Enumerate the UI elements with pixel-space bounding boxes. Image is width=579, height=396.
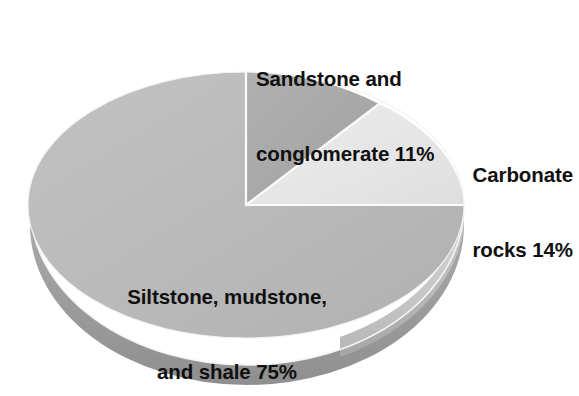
slice-label-siltstone: Siltstone, mudstone, and shale 75% [116,234,338,396]
slice-label-siltstone-line2: and shale 75% [116,359,338,384]
slice-label-carbonate-line2: rocks 14% [447,237,573,262]
slice-label-sandstone-line1: Sandstone and [256,66,434,91]
slice-label-carbonate-line1: Carbonate [447,162,573,187]
slice-label-carbonate: Carbonate rocks 14% [447,112,573,312]
pie-chart-figure: Sandstone and conglomerate 11% Carbonate… [0,0,579,396]
slice-label-sandstone: Sandstone and conglomerate 11% [256,16,434,216]
slice-label-sandstone-line2: conglomerate 11% [256,141,434,166]
slice-label-siltstone-line1: Siltstone, mudstone, [116,284,338,309]
